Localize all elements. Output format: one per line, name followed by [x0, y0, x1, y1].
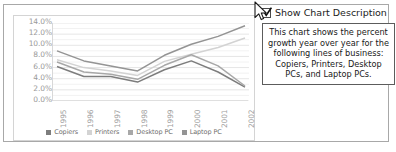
screenshot-root: 14.0%12.0%10.0%8.0%6.0%4.0%2.0%0.0% 1995… [0, 0, 396, 152]
x-axis-tick: 1999 [166, 110, 175, 128]
legend-swatch [87, 130, 92, 135]
legend-swatch [46, 130, 51, 135]
y-axis-tick: 4.0% [33, 74, 52, 82]
y-axis-tick: 14.0% [29, 18, 52, 26]
x-axis-tick: 1997 [113, 110, 122, 128]
y-axis-tick: 2.0% [33, 85, 52, 93]
chart-description-box: This chart shows the percent growth year… [262, 23, 395, 85]
legend-item[interactable]: Desktop PC [128, 128, 172, 136]
chart-description-text: This chart shows the percent growth year… [267, 27, 390, 80]
legend-label: Laptop PC [190, 128, 222, 136]
y-axis-tick: 6.0% [33, 63, 52, 71]
plot-area [52, 23, 248, 101]
x-axis-tick: 1998 [140, 110, 149, 128]
x-axis-tick: 2002 [247, 110, 256, 128]
chart-panel: 14.0%12.0%10.0%8.0%6.0%4.0%2.0%0.0% 1995… [13, 15, 255, 141]
y-axis-tick: 8.0% [33, 51, 52, 59]
show-chart-description-row[interactable]: Show Chart Description [260, 6, 396, 21]
legend-label: Printers [95, 128, 119, 136]
legend-item[interactable]: Laptop PC [182, 128, 222, 136]
chart-legend: CopiersPrintersDesktop PCLaptop PC [14, 128, 254, 136]
y-axis-tick: 12.0% [29, 29, 52, 37]
x-axis-tick: 2001 [220, 110, 229, 128]
outer-frame: 14.0%12.0%10.0%8.0%6.0%4.0%2.0%0.0% 1995… [3, 4, 389, 142]
show-chart-description-checkbox[interactable] [261, 8, 271, 18]
y-axis-tick: 10.0% [29, 40, 52, 48]
legend-swatch [128, 130, 133, 135]
legend-label: Desktop PC [136, 128, 172, 136]
chart-lines-svg [53, 23, 249, 101]
x-axis-tick: 1996 [86, 110, 95, 128]
show-chart-description-label: Show Chart Description [275, 7, 387, 18]
description-column: Show Chart Description This chart shows … [260, 6, 396, 21]
legend-label: Copiers [54, 128, 78, 136]
checkmark-icon [263, 7, 272, 17]
chart-inner: 14.0%12.0%10.0%8.0%6.0%4.0%2.0%0.0% 1995… [14, 16, 254, 140]
legend-item[interactable]: Printers [87, 128, 119, 136]
series-line [57, 55, 245, 86]
legend-swatch [182, 130, 187, 135]
y-axis-labels: 14.0%12.0%10.0%8.0%6.0%4.0%2.0%0.0% [16, 22, 52, 100]
y-axis-tick: 0.0% [33, 96, 52, 104]
x-axis-tick: 1995 [59, 110, 68, 128]
x-axis-tick: 2000 [193, 110, 202, 128]
legend-item[interactable]: Copiers [46, 128, 78, 136]
